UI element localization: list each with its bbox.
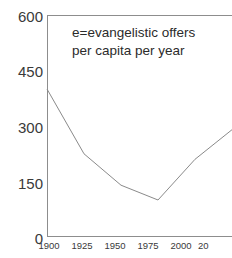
x-tick-label-1925: 1925 [66,241,98,251]
line-chart: 600 450 300 150 0 1900 1925 1950 1975 20… [0,0,232,258]
x-tick-label-1975: 1975 [132,241,164,251]
x-tick-label-1950: 1950 [99,241,131,251]
chart-annotation: e=evangelistic offers per capita per yea… [72,24,195,60]
y-tick-label-300: 300 [3,120,43,135]
x-tick-label-2000: 2000 [165,241,197,251]
x-tick-label-2025-truncated: 20 [198,241,230,251]
y-tick-label-150: 150 [3,176,43,191]
y-tick-label-450: 450 [3,64,43,79]
y-tick-label-600: 600 [3,9,43,24]
x-tick-label-1900: 1900 [33,241,65,251]
annotation-line-1: e=evangelistic offers [72,24,195,42]
annotation-line-2: per capita per year [72,42,195,60]
data-series-line [47,89,232,200]
